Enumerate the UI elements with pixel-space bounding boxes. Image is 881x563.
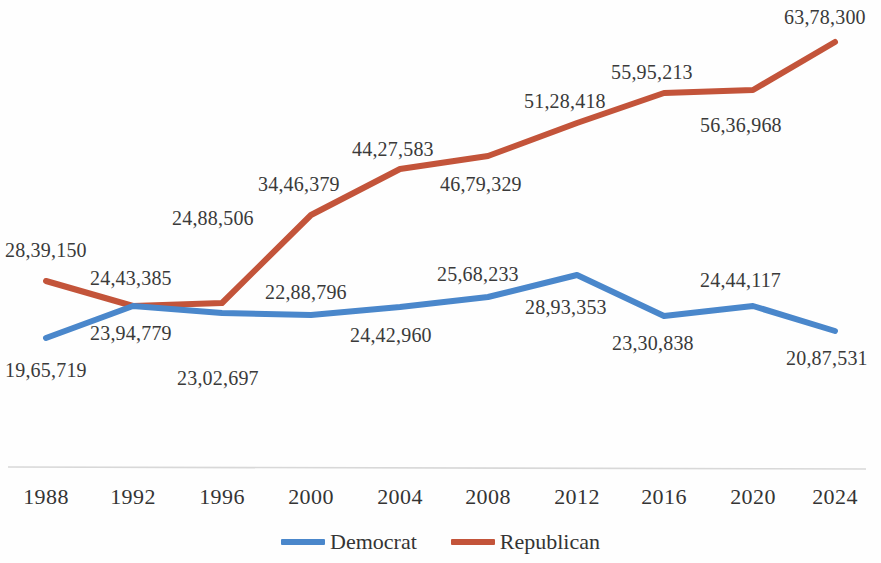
- x-tick-2004: 2004: [377, 484, 423, 510]
- x-tick-1992: 1992: [110, 484, 156, 510]
- legend-label-democrat: Democrat: [330, 529, 417, 555]
- x-tick-2008: 2008: [465, 484, 511, 510]
- x-tick-2020: 2020: [730, 484, 776, 510]
- x-tick-1988: 1988: [23, 484, 69, 510]
- republican-value-label-2024: 63,78,300: [784, 7, 866, 27]
- democrat-value-label-1988: 19,65,719: [5, 360, 87, 380]
- republican-color-swatch: [451, 539, 495, 545]
- democrat-value-label-1996: 23,02,697: [177, 368, 259, 388]
- republican-value-label-2008: 46,79,329: [440, 174, 522, 194]
- republican-value-label-1992: 24,43,385: [90, 268, 172, 288]
- republican-value-label-2020: 56,36,968: [700, 115, 782, 135]
- x-tick-2012: 2012: [554, 484, 600, 510]
- democrat-value-label-1992: 23,94,779: [90, 323, 172, 343]
- democrat-value-label-2008: 25,68,233: [437, 264, 519, 284]
- x-tick-1996: 1996: [199, 484, 245, 510]
- chart-legend: Democrat Republican: [0, 529, 881, 555]
- x-tick-2016: 2016: [641, 484, 687, 510]
- democrat-value-label-2000: 22,88,796: [265, 282, 347, 302]
- democrat-value-label-2020: 24,44,117: [700, 270, 781, 290]
- republican-value-label-2000: 34,46,379: [258, 174, 340, 194]
- democrat-color-swatch: [281, 539, 325, 545]
- republican-value-label-1988: 28,39,150: [5, 240, 87, 260]
- republican-value-label-2016: 55,95,213: [611, 62, 693, 82]
- republican-value-label-1996: 24,88,506: [172, 208, 254, 228]
- line-chart: 19,65,71923,94,77923,02,69722,88,79624,4…: [0, 0, 881, 563]
- x-tick-2000: 2000: [288, 484, 334, 510]
- legend-label-republican: Republican: [500, 529, 600, 555]
- legend-item-democrat[interactable]: Democrat: [281, 529, 417, 555]
- democrat-value-label-2024: 20,87,531: [786, 348, 868, 368]
- democrat-value-label-2016: 23,30,838: [612, 333, 694, 353]
- democrat-value-label-2004: 24,42,960: [350, 325, 432, 345]
- legend-item-republican[interactable]: Republican: [451, 529, 600, 555]
- x-axis-line: [8, 467, 866, 469]
- democrat-value-label-2012: 28,93,353: [525, 297, 607, 317]
- x-tick-2024: 2024: [812, 484, 858, 510]
- republican-value-label-2004: 44,27,583: [352, 139, 434, 159]
- republican-value-label-2012: 51,28,418: [524, 91, 606, 111]
